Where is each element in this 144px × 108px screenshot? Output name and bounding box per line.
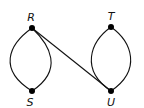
label-t: T bbox=[108, 10, 116, 23]
node-t bbox=[108, 24, 114, 30]
edge-r-s-right bbox=[32, 28, 51, 91]
label-u: U bbox=[107, 96, 115, 108]
node-u bbox=[108, 88, 114, 94]
node-r bbox=[29, 25, 35, 31]
graph-diagram: R T S U bbox=[0, 0, 144, 108]
node-s bbox=[29, 88, 35, 94]
label-s: S bbox=[27, 96, 34, 108]
edge-t-u-right bbox=[111, 27, 131, 91]
edge-t-u-left bbox=[91, 27, 111, 91]
edge-r-s-left bbox=[10, 28, 32, 91]
label-r: R bbox=[27, 11, 35, 24]
